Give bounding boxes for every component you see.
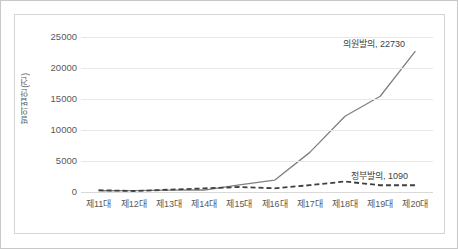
gridline: [81, 99, 433, 100]
x-tick-label: 제11대: [81, 197, 116, 217]
y-tick-label: 10000: [19, 125, 77, 135]
x-tick-label: 제17대: [292, 197, 327, 217]
x-tick-label: 제13대: [151, 197, 186, 217]
y-tick-label: 5000: [19, 156, 77, 166]
x-tick-label: 제18대: [327, 197, 362, 217]
chart-container: 발의법안(건) 0500010000150002000025000 제11대제1…: [14, 14, 445, 234]
y-tick-label: 0: [19, 187, 77, 197]
x-tick-label: 제14대: [187, 197, 222, 217]
x-tick-label: 제16대: [257, 197, 292, 217]
x-tick-label: 제20대: [398, 197, 433, 217]
y-axis-tick-labels: 0500010000150002000025000: [15, 37, 77, 192]
x-tick-label: 제19대: [363, 197, 398, 217]
gridline: [81, 130, 433, 131]
gridline: [81, 161, 433, 162]
gridline: [81, 192, 433, 193]
x-tick-label: 제12대: [116, 197, 151, 217]
gridline: [81, 68, 433, 69]
y-tick-label: 15000: [19, 94, 77, 104]
y-tick-label: 25000: [19, 32, 77, 42]
x-axis-tick-labels: 제11대제12대제13대제14대제15대제16대제17대제18대제19대제20대: [81, 197, 433, 217]
y-tick-label: 20000: [19, 63, 77, 73]
gridline: [81, 37, 433, 38]
annotation-jeongbu-balui: 정부발의, 1090: [351, 171, 408, 181]
series-line-의원발의: [99, 51, 416, 191]
series-lines: [81, 37, 433, 192]
plot-area: [81, 37, 433, 192]
annotation-uiwon-balui: 의원발의, 22730: [343, 39, 405, 49]
x-tick-label: 제15대: [222, 197, 257, 217]
screenshot-outer-frame: 발의법안(건) 0500010000150002000025000 제11대제1…: [0, 0, 458, 249]
